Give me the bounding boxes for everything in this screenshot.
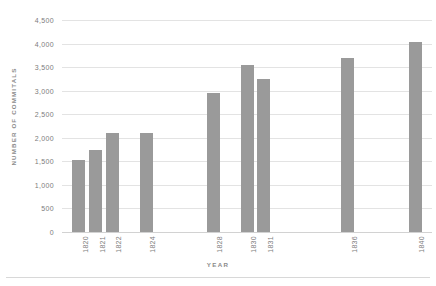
x-axis-tick-label: 1820 — [82, 236, 89, 253]
x-axis-tick-label: 1824 — [149, 236, 156, 253]
x-axis-tick-label: 1822 — [115, 236, 122, 253]
y-axis-tick-label: 4,000 — [0, 40, 54, 47]
bar-chart-figure: NUMBER OF COMMITALS 05001,0001,5002,0002… — [0, 0, 436, 286]
bar — [341, 58, 354, 232]
y-axis-tick-label: 3,000 — [0, 87, 54, 94]
bar — [409, 42, 422, 232]
gridline — [62, 20, 432, 21]
gridline — [62, 232, 432, 233]
bar — [89, 150, 102, 232]
gridline — [62, 44, 432, 45]
y-axis-tick-label: 1,000 — [0, 181, 54, 188]
y-axis-tick-label: 1,500 — [0, 158, 54, 165]
x-axis-tick-label: 1828 — [216, 236, 223, 253]
y-axis-tick-label: 3,500 — [0, 64, 54, 71]
x-axis-tick-label: 1836 — [351, 236, 358, 253]
y-axis-tick-label: 2,500 — [0, 111, 54, 118]
x-axis-title: YEAR — [0, 261, 436, 268]
plot-area: 05001,0001,5002,0002,5003,0003,5004,0004… — [62, 20, 432, 232]
bar — [257, 79, 270, 232]
x-axis-tick-label: 1830 — [250, 236, 257, 253]
y-axis-tick-label: 2,000 — [0, 134, 54, 141]
bar — [72, 160, 85, 232]
y-axis-tick-label: 0 — [0, 229, 54, 236]
x-axis-tick-label: 1831 — [267, 236, 274, 253]
bottom-divider — [6, 277, 430, 278]
bar — [106, 133, 119, 232]
y-axis-tick-label: 4,500 — [0, 17, 54, 24]
x-axis-tick-label: 1840 — [418, 236, 425, 253]
x-axis-tick-label: 1821 — [99, 236, 106, 253]
bar — [241, 65, 254, 232]
y-axis-tick-label: 500 — [0, 205, 54, 212]
bar — [207, 93, 220, 232]
bar — [140, 133, 153, 232]
